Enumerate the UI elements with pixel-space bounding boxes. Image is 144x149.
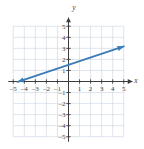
plotted-line (18, 46, 124, 82)
y-tick-label-neg4: –4 (58, 122, 67, 130)
x-tick-label-neg3: –3 (31, 85, 40, 93)
line-segment (18, 46, 124, 81)
y-tick-label-neg3: –3 (58, 111, 67, 119)
line-arrow-start-icon (18, 77, 25, 82)
x-tick-label-5: 5 (122, 85, 126, 93)
y-tick-label-5: 5 (62, 23, 66, 31)
x-tick-label-4: 4 (111, 85, 115, 93)
axis-tick-labels: –5–4–3–2–11234554321–1–2–3–4–5 (9, 23, 126, 142)
y-tick-label-2: 2 (62, 56, 66, 64)
y-tick-label-neg1: –1 (58, 89, 67, 97)
y-tick-label-neg5: –5 (58, 133, 67, 141)
graph-canvas: –5–4–3–2–11234554321–1–2–3–4–5 x y (0, 0, 144, 149)
x-tick-label-neg4: –4 (20, 85, 29, 93)
x-tick-label-1: 1 (78, 85, 82, 93)
x-tick-label-3: 3 (100, 85, 104, 93)
y-axis-label: y (71, 3, 76, 12)
y-axis-arrow-icon (66, 17, 71, 22)
y-tick-label-3: 3 (62, 45, 66, 53)
x-axis-arrow-icon (128, 79, 133, 84)
coordinate-plane-figure: –5–4–3–2–11234554321–1–2–3–4–5 x y (0, 0, 144, 149)
y-tick-label-1: 1 (62, 67, 66, 75)
x-tick-label-neg5: –5 (9, 85, 18, 93)
x-axis-label: x (133, 76, 138, 85)
y-tick-label-4: 4 (62, 34, 66, 42)
x-tick-label-neg2: –2 (42, 85, 51, 93)
y-tick-label-neg2: –2 (58, 100, 67, 108)
x-tick-label-2: 2 (89, 85, 93, 93)
